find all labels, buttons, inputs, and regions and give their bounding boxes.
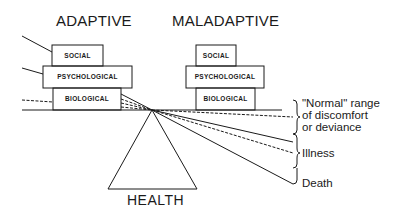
adaptive-biological-label: BIOLOGICAL xyxy=(53,95,121,102)
health-label: HEALTH xyxy=(127,192,184,208)
left-tilt-line-psychological xyxy=(22,68,43,74)
brace-normal-range xyxy=(293,100,300,134)
fan-line-illness-solid xyxy=(152,110,293,142)
maladaptive-biological-label: BIOLOGICAL xyxy=(196,95,255,102)
adaptive-social-label: SOCIAL xyxy=(52,52,103,59)
normal-range-label-line1: "Normal" range xyxy=(302,98,380,110)
maladaptive-title: MALADAPTIVE xyxy=(172,12,279,29)
normal-range-label-line3: or deviance xyxy=(302,122,361,134)
adaptive-psychological-label: PSYCHOLOGICAL xyxy=(43,73,132,80)
death-label: Death xyxy=(302,178,333,190)
brace-illness xyxy=(293,134,300,168)
maladaptive-social-label: SOCIAL xyxy=(196,52,236,59)
brace-death xyxy=(293,168,297,184)
illness-label: Illness xyxy=(302,148,335,160)
maladaptive-psychological-label: PSYCHOLOGICAL xyxy=(186,73,264,80)
adaptive-title: ADAPTIVE xyxy=(56,12,132,29)
health-fulcrum-triangle xyxy=(108,110,197,189)
left-tilt-line-social xyxy=(22,36,52,52)
left-tilt-line-biological xyxy=(22,100,53,102)
fan-line-normal-dashed xyxy=(152,110,293,117)
normal-range-label-line2: of discomfort xyxy=(302,110,368,122)
